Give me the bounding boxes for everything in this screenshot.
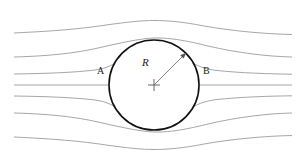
label-point-a: A bbox=[97, 66, 104, 76]
label-point-b: B bbox=[203, 66, 210, 76]
figure-canvas bbox=[0, 0, 304, 160]
streamline-1-top bbox=[14, 21, 292, 35]
flow-around-cylinder-figure: A B R bbox=[0, 0, 304, 160]
label-radius-r: R bbox=[142, 57, 149, 68]
streamline-1-bottom bbox=[14, 136, 292, 150]
